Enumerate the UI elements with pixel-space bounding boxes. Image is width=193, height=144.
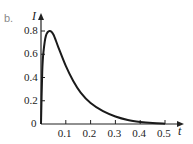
series-line — [41, 31, 165, 124]
axes — [41, 17, 180, 124]
y-tick-label: 0 — [31, 118, 37, 129]
y-tick-label: 0.8 — [24, 25, 38, 36]
y-axis-label: I — [32, 10, 36, 22]
y-tick-label: 0.4 — [24, 72, 38, 83]
y-axis-arrow-icon — [38, 13, 44, 20]
x-tick-label: 0.5 — [157, 128, 171, 139]
x-axis-label: t — [178, 125, 181, 137]
x-tick-label: 0.4 — [132, 128, 146, 139]
y-tick-label: 0.2 — [24, 95, 38, 106]
x-tick-label: 0.2 — [83, 128, 97, 139]
x-tick-label: 0.3 — [107, 128, 121, 139]
x-tick-label: 0.1 — [58, 128, 72, 139]
y-tick-label: 0.6 — [24, 48, 38, 59]
